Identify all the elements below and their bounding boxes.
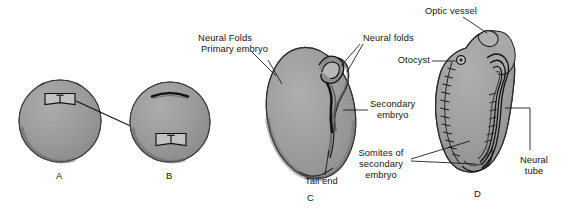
- graft-marker-b: [156, 134, 186, 146]
- panel-b-group: [130, 82, 210, 162]
- otocyst-d: [457, 56, 466, 65]
- label-secondary-embryo-line1: Secondary: [370, 99, 415, 110]
- label-tail-end: Tail end: [305, 176, 338, 187]
- panel-letter-a: A: [56, 170, 63, 181]
- label-somites-line2: secondary: [352, 159, 410, 170]
- graft-marker-a: [45, 94, 75, 105]
- label-neural-folds-secondary: Neural folds: [363, 33, 414, 44]
- label-somites-line3: embryo: [352, 170, 410, 181]
- label-primary-embryo: Primary embryo: [140, 44, 268, 55]
- label-somites-line1: Somites of: [352, 148, 410, 159]
- label-neural-tube-line1: Neural: [512, 155, 556, 166]
- label-secondary-embryo-line2: embryo: [377, 110, 409, 121]
- panel-a-group: [19, 80, 101, 162]
- label-otocyst: Otocyst: [370, 55, 430, 66]
- leader-neural-folds-primary-c: [252, 52, 276, 76]
- panel-letter-c: C: [307, 192, 314, 203]
- label-neural-folds-primary: Neural Folds: [150, 33, 252, 44]
- leader-optic-vessel-d: [463, 17, 487, 33]
- embryo-texture-c: [257, 41, 365, 185]
- label-optic-vessel: Optic vessel: [425, 6, 477, 17]
- panel-c-group: [257, 41, 365, 185]
- leader-neural-folds-secondary-c2: [347, 44, 363, 72]
- panel-letter-d: D: [474, 188, 481, 199]
- figure-canvas: [0, 0, 562, 211]
- panel-d-group: [436, 31, 516, 172]
- panel-letter-b: B: [166, 170, 173, 181]
- embryology-figure: Neural Folds Primary embryo Neural folds…: [0, 0, 562, 211]
- label-neural-tube-line2: tube: [512, 166, 556, 177]
